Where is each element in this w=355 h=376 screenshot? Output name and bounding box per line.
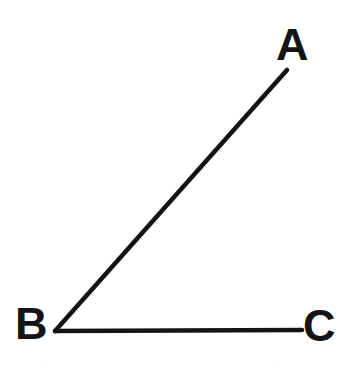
point-label-c: C bbox=[303, 303, 336, 348]
point-label-b: B bbox=[15, 301, 48, 346]
angle-diagram-figure: A B C bbox=[0, 0, 355, 376]
point-label-a: A bbox=[276, 22, 309, 67]
vertex-b-point bbox=[53, 329, 57, 333]
ray-bc-line bbox=[55, 330, 302, 331]
